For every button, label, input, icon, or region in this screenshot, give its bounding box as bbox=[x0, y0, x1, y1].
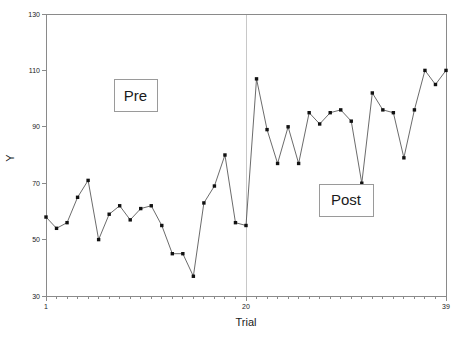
y-tick-label: 30 bbox=[32, 293, 40, 300]
annotation-post: Post bbox=[319, 184, 373, 216]
y-axis-title: Y bbox=[4, 154, 16, 162]
x-tick-label: 1 bbox=[44, 303, 48, 310]
data-point bbox=[55, 227, 58, 230]
data-point bbox=[234, 221, 237, 224]
y-tick-label: 90 bbox=[32, 123, 40, 130]
y-tick-label: 50 bbox=[32, 236, 40, 243]
data-point bbox=[76, 196, 79, 199]
data-point bbox=[265, 128, 268, 131]
data-point bbox=[392, 111, 395, 114]
post-box-label: Post bbox=[331, 191, 362, 208]
data-point bbox=[139, 207, 142, 210]
data-point bbox=[371, 91, 374, 94]
data-point bbox=[44, 215, 47, 218]
data-point bbox=[192, 275, 195, 278]
data-point bbox=[276, 162, 279, 165]
data-point bbox=[402, 156, 405, 159]
data-point bbox=[307, 111, 310, 114]
pre-box-label: Pre bbox=[124, 87, 147, 104]
data-point bbox=[213, 184, 216, 187]
y-tick-label: 70 bbox=[32, 180, 40, 187]
data-point bbox=[97, 238, 100, 241]
data-point bbox=[86, 179, 89, 182]
x-tick-label: 20 bbox=[242, 303, 250, 310]
data-point bbox=[423, 69, 426, 72]
data-point bbox=[181, 252, 184, 255]
chart-container: 30507090110130 12039 Pre Post Trial Y bbox=[0, 0, 465, 341]
data-point bbox=[286, 125, 289, 128]
data-point bbox=[381, 108, 384, 111]
line-chart: 30507090110130 12039 Pre Post Trial Y bbox=[0, 0, 465, 341]
data-point bbox=[65, 221, 68, 224]
data-point bbox=[160, 224, 163, 227]
data-point bbox=[434, 83, 437, 86]
data-point bbox=[107, 213, 110, 216]
data-point bbox=[413, 108, 416, 111]
data-point bbox=[202, 201, 205, 204]
annotation-pre: Pre bbox=[114, 80, 157, 112]
reference-lines-group bbox=[46, 14, 446, 296]
x-axis-ticks-group: 12039 bbox=[44, 296, 450, 310]
y-axis-ticks-group: 30507090110130 bbox=[28, 11, 46, 300]
data-point bbox=[329, 111, 332, 114]
data-point bbox=[318, 122, 321, 125]
data-point bbox=[350, 119, 353, 122]
data-point bbox=[150, 204, 153, 207]
data-point bbox=[339, 108, 342, 111]
annotations-group: Pre Post bbox=[114, 80, 373, 216]
data-point bbox=[118, 204, 121, 207]
data-point bbox=[297, 162, 300, 165]
data-point bbox=[171, 252, 174, 255]
y-tick-label: 110 bbox=[29, 67, 40, 74]
x-tick-label: 39 bbox=[442, 303, 450, 310]
x-axis-title: Trial bbox=[236, 316, 257, 328]
data-point bbox=[244, 224, 247, 227]
data-point bbox=[129, 218, 132, 221]
data-point bbox=[255, 77, 258, 80]
data-point bbox=[444, 69, 447, 72]
data-point bbox=[223, 153, 226, 156]
y-tick-label: 130 bbox=[28, 11, 40, 18]
